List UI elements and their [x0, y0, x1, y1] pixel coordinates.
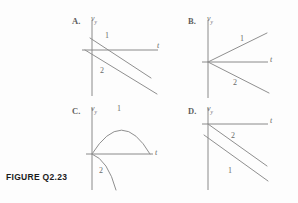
- panel-b-letter: B.: [188, 16, 196, 26]
- panel-a-curve-1-label: 1: [105, 31, 109, 40]
- panel-b-curve-1-label: 1: [240, 34, 244, 43]
- panel-a-horizontal-axis-label: t: [157, 41, 159, 50]
- panel-c-curve-1-label: 1: [117, 104, 121, 113]
- panel-c: C. vy t 1 2: [72, 104, 177, 194]
- panel-a-vertical-axis-label: vy: [91, 14, 97, 25]
- panel-d-curve-1: [204, 135, 268, 181]
- panel-d-letter: D.: [188, 106, 197, 116]
- figure-q2-23: A. vy t 1 2 B. vy t 1 2 C. vy t 1 2: [0, 0, 298, 203]
- panel-a-curve-2: [85, 50, 157, 94]
- panel-b: B. vy t 1 2: [188, 14, 288, 102]
- panel-d-vertical-axis-label: vy: [207, 104, 213, 115]
- panel-a-letter: A.: [72, 16, 81, 26]
- panel-b-curve-2-label: 2: [233, 78, 237, 87]
- panel-d-curve-1-label: 1: [228, 166, 232, 175]
- panel-a: A. vy t 1 2: [72, 14, 177, 102]
- panel-b-horizontal-axis-label: t: [270, 55, 272, 64]
- panel-c-letter: C.: [72, 106, 81, 116]
- panel-d-curve-2: [208, 124, 267, 166]
- panel-b-curve-1: [208, 33, 267, 62]
- panel-b-vertical-axis-label: vy: [207, 14, 213, 25]
- panel-a-curve-2-label: 2: [100, 66, 104, 75]
- panel-d-horizontal-axis-label: t: [270, 116, 272, 125]
- panel-c-vertical-axis-label: vy: [91, 104, 97, 115]
- panel-d-curve-2-label: 2: [231, 131, 235, 140]
- panel-b-curve-2: [208, 62, 269, 93]
- panel-c-horizontal-axis-label: t: [155, 148, 157, 157]
- panel-c-curve-1: [92, 130, 150, 154]
- panel-c-curve-2-label: 2: [99, 166, 103, 175]
- figure-caption: FIGURE Q2.23: [6, 172, 67, 182]
- panel-c-curve-2: [92, 154, 116, 190]
- panel-d: D. vy t 2 1: [188, 104, 288, 194]
